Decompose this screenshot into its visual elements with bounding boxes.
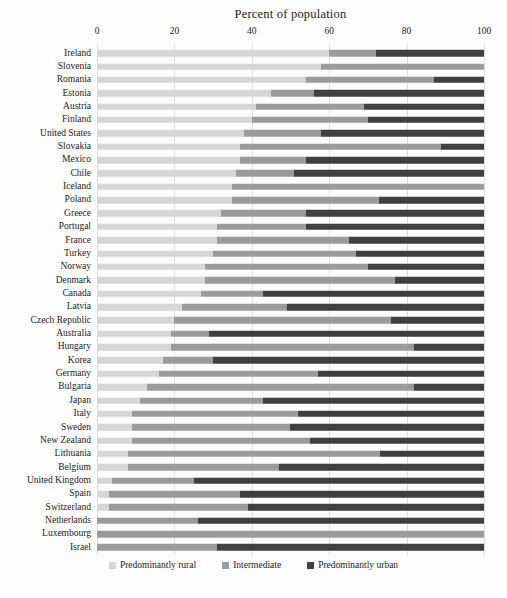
legend-item-rural: Predominantly rural (109, 560, 196, 570)
bar-segment-rural (97, 357, 163, 364)
bar-segment-intermediate (182, 304, 286, 311)
chart-row: Italy (0, 407, 507, 420)
bar-segment-intermediate (244, 130, 321, 137)
stacked-bar (97, 344, 484, 351)
chart-row: New Zealand (0, 434, 507, 447)
legend-label: Predominantly rural (120, 560, 196, 570)
legend-item-urban: Predominantly urban (307, 560, 398, 570)
bar-segment-intermediate (109, 491, 241, 498)
chart-row: Czech Republic (0, 314, 507, 327)
chart-row: Greece (0, 207, 507, 220)
chart-row: Switzerland (0, 501, 507, 514)
chart-row: Hungary (0, 340, 507, 353)
country-label: Denmark (0, 274, 91, 287)
bar-segment-rural (97, 117, 252, 124)
chart-row: Turkey (0, 247, 507, 260)
bar-segment-rural (97, 304, 182, 311)
bar-segment-urban (356, 250, 484, 257)
chart-row: Finland (0, 113, 507, 126)
stacked-bar (97, 143, 484, 150)
bar-segment-urban (395, 277, 484, 284)
bar-segment-urban (263, 290, 484, 297)
bar-segment-urban (279, 464, 484, 471)
bar-segment-rural (97, 90, 271, 97)
bar-segment-urban (290, 424, 484, 431)
x-tick-label: 80 (402, 26, 412, 36)
bar-segment-intermediate (132, 411, 298, 418)
country-label: Iceland (0, 180, 91, 193)
bar-segment-urban (213, 357, 484, 364)
country-label: Korea (0, 354, 91, 367)
bar-segment-urban (217, 544, 484, 551)
chart-row: Austria (0, 100, 507, 113)
legend-swatch-intermediate-icon (222, 562, 229, 569)
chart-row: Ireland (0, 47, 507, 60)
chart-row: Canada (0, 287, 507, 300)
bar-segment-intermediate (217, 224, 306, 231)
bar-segment-urban (306, 210, 484, 217)
stacked-bar (97, 197, 484, 204)
bar-segment-intermediate (128, 464, 279, 471)
bar-segment-intermediate (271, 90, 314, 97)
bar-segment-urban (248, 504, 484, 511)
bar-segment-intermediate (232, 184, 484, 191)
chart-rows: IrelandSloveniaRomaniaEstoniaAustriaFinl… (0, 47, 507, 555)
stacked-bar (97, 210, 484, 217)
bar-segment-rural (97, 371, 159, 378)
chart-row: Belgium (0, 461, 507, 474)
bar-segment-urban (306, 224, 484, 231)
legend-swatch-rural-icon (109, 562, 116, 569)
stacked-bar (97, 103, 484, 110)
bar-segment-rural (97, 224, 217, 231)
chart-row: Latvia (0, 300, 507, 313)
chart-row: Luxembourg (0, 527, 507, 540)
bar-segment-intermediate (201, 290, 263, 297)
chart-title: Percent of population (97, 7, 484, 22)
bar-segment-rural (97, 290, 201, 297)
bar-segment-urban (240, 491, 484, 498)
bar-segment-intermediate (240, 157, 306, 164)
bar-segment-rural (97, 317, 174, 324)
bar-segment-rural (97, 50, 329, 57)
bar-segment-rural (97, 130, 244, 137)
bar-segment-intermediate (240, 143, 441, 150)
chart-figure: Percent of population 020406080100 Irela… (0, 0, 507, 598)
country-label: Italy (0, 407, 91, 420)
stacked-bar (97, 424, 484, 431)
x-tick-label: 60 (324, 26, 334, 36)
bar-segment-intermediate (97, 531, 484, 538)
bar-segment-rural (97, 63, 321, 70)
bar-segment-urban (298, 411, 484, 418)
bar-segment-rural (97, 464, 128, 471)
chart-row: Denmark (0, 274, 507, 287)
bar-segment-urban (287, 304, 484, 311)
x-tick-label: 0 (95, 26, 100, 36)
stacked-bar (97, 330, 484, 337)
chart-row: Germany (0, 367, 507, 380)
chart-row: Lithuania (0, 447, 507, 460)
bar-segment-intermediate (256, 103, 364, 110)
bar-segment-rural (97, 143, 240, 150)
stacked-bar (97, 531, 484, 538)
bar-segment-intermediate (128, 451, 380, 458)
bar-segment-urban (441, 143, 484, 150)
chart-row: United States (0, 127, 507, 140)
bar-segment-rural (97, 184, 232, 191)
bar-segment-rural (97, 210, 221, 217)
stacked-bar (97, 170, 484, 177)
stacked-bar (97, 250, 484, 257)
country-label: Romania (0, 73, 91, 86)
stacked-bar (97, 90, 484, 97)
chart-row: Iceland (0, 180, 507, 193)
country-label: Luxembourg (0, 527, 91, 540)
country-label: Sweden (0, 421, 91, 434)
x-tick-label: 100 (477, 26, 491, 36)
legend: Predominantly ruralIntermediatePredomina… (0, 560, 507, 570)
country-label: Slovenia (0, 60, 91, 73)
stacked-bar (97, 277, 484, 284)
x-axis-ticks: 020406080100 (97, 26, 484, 39)
bar-segment-rural (97, 330, 171, 337)
bar-segment-urban (376, 50, 484, 57)
chart-row: Slovakia (0, 140, 507, 153)
stacked-bar (97, 157, 484, 164)
